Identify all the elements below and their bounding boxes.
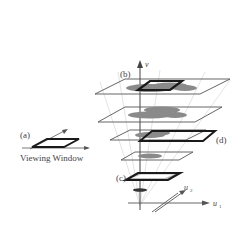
layer-5	[126, 173, 180, 180]
label-a: (a)	[20, 130, 30, 140]
viewing-window-label: Viewing Window	[20, 153, 84, 163]
layer-3	[110, 130, 215, 141]
v-axis-label: v	[145, 60, 149, 69]
u1-axis-sub: 1	[219, 204, 222, 209]
u-axes: u 1 u 2	[128, 183, 222, 212]
scale-space-diagram: v u 1	[0, 0, 251, 226]
label-d: (d)	[216, 135, 227, 145]
layer-top	[95, 79, 230, 94]
layer-2	[98, 107, 222, 123]
u2-axis-label: u	[184, 183, 188, 192]
viewing-window-icon: (a) Viewing Window	[20, 129, 90, 163]
u2-axis-sub: 2	[190, 188, 193, 193]
u1-axis-label: u	[213, 199, 217, 208]
label-b: (b)	[120, 69, 131, 79]
label-c: (c)	[116, 173, 126, 183]
bottom-blob	[133, 188, 147, 192]
